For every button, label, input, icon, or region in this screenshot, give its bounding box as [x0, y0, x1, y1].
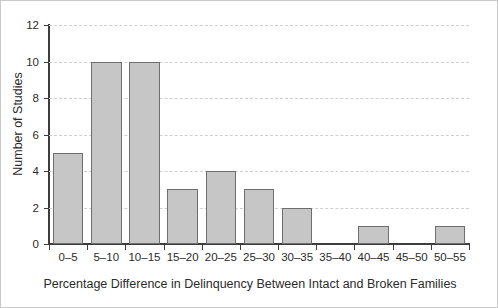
- x-axis-tick-label: 25–30: [243, 251, 275, 263]
- x-axis-tick-mark: [469, 245, 470, 250]
- histogram-figure: 024681012 0–55–1010–1515–2020–2525–3030–…: [0, 0, 498, 308]
- x-axis-tick-label: 50–55: [434, 251, 466, 263]
- x-axis-tick-mark: [393, 245, 394, 250]
- x-axis-tick-label: 5–10: [93, 251, 119, 263]
- x-axis-tick-mark: [164, 245, 165, 250]
- y-axis-title: Number of Studies: [11, 54, 25, 194]
- x-axis-tick-mark: [202, 245, 203, 250]
- x-axis-tick-label: 45–50: [396, 251, 428, 263]
- x-axis-tick-mark: [87, 245, 88, 250]
- x-axis-tick-label: 0–5: [58, 251, 77, 263]
- x-axis-tick-mark: [316, 245, 317, 250]
- x-axis-tick-label: 30–35: [281, 251, 313, 263]
- x-axis-tick-mark: [125, 245, 126, 250]
- bar: [435, 226, 466, 244]
- x-axis-tick-label: 40–45: [358, 251, 390, 263]
- x-axis-tick-label: 35–40: [319, 251, 351, 263]
- x-axis-tick-mark: [278, 245, 279, 250]
- bar: [244, 189, 275, 244]
- bar: [282, 208, 313, 245]
- bar: [358, 226, 389, 244]
- bar: [91, 62, 122, 245]
- x-axis-tick-mark: [354, 245, 355, 250]
- plot-area: [49, 25, 469, 244]
- x-axis-tick-mark: [431, 245, 432, 250]
- x-axis-tick-mark: [240, 245, 241, 250]
- bar: [167, 189, 198, 244]
- x-axis-title: Percentage Difference in Delinquency Bet…: [1, 277, 498, 291]
- y-axis-tick-label: 0: [0, 238, 39, 250]
- x-axis-tick-mark: [49, 245, 50, 250]
- bar: [53, 153, 84, 244]
- y-axis-tick-label: 12: [0, 19, 39, 31]
- bar: [129, 62, 160, 245]
- x-axis-tick-label: 20–25: [205, 251, 237, 263]
- x-axis-tick-label: 10–15: [128, 251, 160, 263]
- bar: [206, 171, 237, 244]
- x-axis-tick-label: 15–20: [167, 251, 199, 263]
- y-axis-tick-label: 2: [0, 202, 39, 214]
- bar-series: [49, 25, 469, 244]
